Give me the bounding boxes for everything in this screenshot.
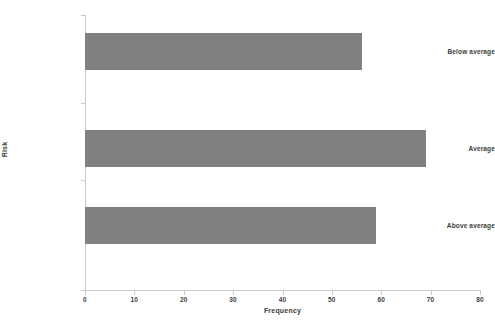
x-axis-tick-label: 10 — [119, 296, 149, 303]
bar — [85, 130, 426, 167]
y-axis-tick — [81, 103, 85, 104]
x-axis-tick — [332, 291, 333, 295]
x-axis-tick — [134, 291, 135, 295]
x-axis-tick-label: 30 — [218, 296, 248, 303]
x-axis-tick — [233, 291, 234, 295]
y-axis-title: Risk — [1, 130, 8, 170]
y-axis-tick-label: Average — [417, 145, 495, 152]
x-axis-tick — [480, 291, 481, 295]
x-axis-tick — [283, 291, 284, 295]
x-axis-tick-label: 60 — [366, 296, 396, 303]
x-axis-tick — [85, 291, 86, 295]
y-axis-tick-label: Above average — [417, 222, 495, 229]
y-axis-tick — [81, 15, 85, 16]
x-axis-tick-label: 70 — [416, 296, 446, 303]
y-axis-tick — [81, 180, 85, 181]
bar — [85, 207, 376, 244]
x-axis-tick-label: 80 — [465, 296, 495, 303]
x-axis-title: Frequency — [0, 307, 495, 314]
x-axis-tick-label: 50 — [317, 296, 347, 303]
y-axis-tick-label: Below average — [417, 48, 495, 55]
bar — [85, 33, 362, 70]
x-axis-tick-label: 40 — [268, 296, 298, 303]
chart-title — [0, 0, 495, 1]
x-axis-tick-label: 0 — [70, 296, 100, 303]
x-axis-tick — [184, 291, 185, 295]
x-axis-tick — [431, 291, 432, 295]
x-axis-tick-label: 20 — [169, 296, 199, 303]
x-axis-tick — [381, 291, 382, 295]
bar-chart: Below averageAverageAbove average 010203… — [0, 0, 495, 321]
